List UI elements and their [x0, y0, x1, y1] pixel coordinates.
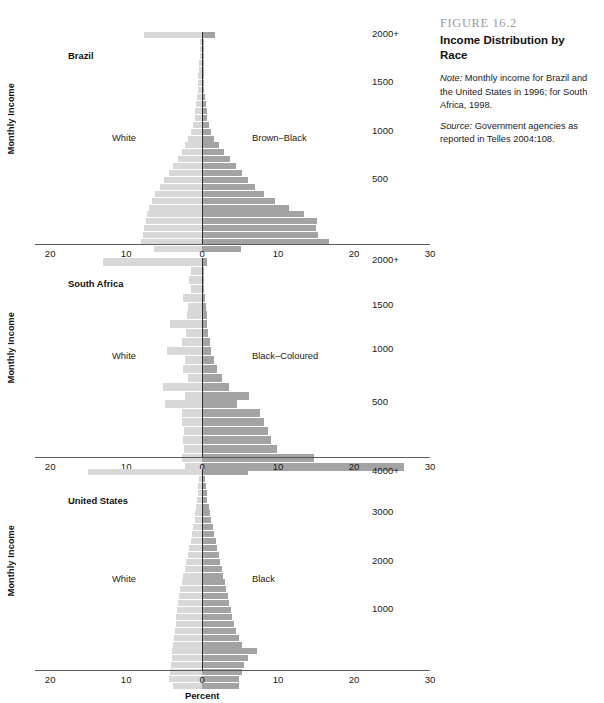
bar-left	[172, 655, 202, 661]
bar-left	[185, 142, 202, 148]
bar-right	[202, 184, 255, 190]
bar-row	[35, 559, 430, 565]
bar-left	[189, 545, 202, 551]
bar-right	[202, 383, 229, 391]
bar-right	[202, 232, 318, 238]
chart-panel-brazil: Monthly IncomeBrazilWhiteBrown–Black2010…	[0, 14, 604, 284]
bar-row	[35, 648, 430, 654]
bar-row	[35, 142, 430, 148]
bar-left	[163, 383, 202, 391]
bar-right	[202, 662, 244, 668]
plot-area-united-states: 20100102030	[35, 463, 430, 672]
bar-row	[35, 593, 430, 599]
bar-right	[202, 524, 213, 530]
bar-right	[202, 621, 234, 627]
bar-right	[202, 427, 268, 435]
bar-right	[202, 365, 216, 373]
x-tick-label: 10	[273, 674, 284, 685]
zero-axis-line	[202, 32, 203, 244]
bar-row	[35, 642, 430, 648]
bar-left	[182, 579, 203, 585]
bar-row	[35, 566, 430, 572]
bar-right	[202, 504, 209, 510]
bar-right	[202, 635, 238, 641]
x-tick-label: 20	[349, 674, 360, 685]
bar-row	[35, 258, 430, 266]
bar-row	[35, 504, 430, 510]
bar-row	[35, 108, 430, 114]
x-axis-title: Percent	[185, 690, 219, 701]
bar-left	[188, 303, 202, 311]
bar-row	[35, 163, 430, 169]
bar-row	[35, 115, 430, 121]
bar-left	[143, 232, 202, 238]
bar-left	[160, 184, 203, 190]
bar-row	[35, 400, 430, 408]
bar-left	[184, 427, 202, 435]
bar-right	[202, 538, 216, 544]
bar-row	[35, 156, 430, 162]
bar-right	[202, 579, 225, 585]
bar-left	[191, 129, 202, 135]
bar-row	[35, 311, 430, 319]
bar-left	[191, 285, 202, 293]
bar-left	[149, 205, 202, 211]
y-tick-label: 1000	[372, 603, 393, 614]
y-axis-title-united-states: Monthly Income	[6, 525, 16, 596]
chart-panel-south-africa: Monthly IncomeSouth AfricaWhiteBlack–Col…	[0, 250, 604, 497]
bar-row	[35, 177, 430, 183]
bar-row	[35, 53, 430, 59]
bar-left	[182, 409, 202, 417]
bar-left	[185, 356, 202, 364]
bar-left	[191, 267, 202, 275]
bar-right	[202, 648, 257, 654]
bar-left	[167, 347, 202, 355]
bar-left	[188, 374, 202, 382]
bar-right	[202, 517, 211, 523]
bar-left	[188, 136, 202, 142]
bar-right	[202, 445, 277, 453]
bar-row	[35, 347, 430, 355]
bar-row	[35, 170, 430, 176]
bar-left	[182, 418, 203, 426]
bar-row	[35, 365, 430, 373]
bar-row	[35, 510, 430, 516]
bar-left	[175, 628, 202, 634]
bar-left	[146, 218, 202, 224]
bar-row	[35, 232, 430, 238]
y-axis-title-south-africa: Monthly Income	[6, 312, 16, 383]
bar-right	[202, 600, 229, 606]
bar-row	[35, 294, 430, 302]
bar-left	[172, 648, 202, 654]
x-axis-line-south-africa	[35, 457, 430, 458]
bar-row	[35, 517, 430, 523]
bar-row	[35, 676, 430, 682]
bar-right	[202, 409, 260, 417]
bar-right	[202, 347, 211, 355]
bar-row	[35, 87, 430, 93]
bar-left	[173, 163, 202, 169]
bar-row	[35, 662, 430, 668]
bar-left	[179, 593, 202, 599]
bar-row	[35, 205, 430, 211]
bar-left	[183, 294, 202, 302]
bar-left	[178, 156, 202, 162]
bar-row	[35, 356, 430, 364]
bar-left	[173, 683, 202, 689]
bar-right	[202, 129, 211, 135]
bar-right	[202, 573, 223, 579]
bar-row	[35, 184, 430, 190]
bar-row	[35, 73, 430, 79]
bar-left	[147, 211, 202, 217]
bar-right	[202, 156, 230, 162]
bar-row	[35, 320, 430, 328]
y-tick-label: 2000+	[372, 254, 399, 265]
bar-row	[35, 538, 430, 544]
bar-left	[144, 225, 202, 231]
bar-left	[183, 573, 202, 579]
bar-row	[35, 198, 430, 204]
bar-row	[35, 635, 430, 641]
bar-left	[183, 436, 202, 444]
bar-row	[35, 531, 430, 537]
x-tick-label: 0	[199, 674, 204, 685]
